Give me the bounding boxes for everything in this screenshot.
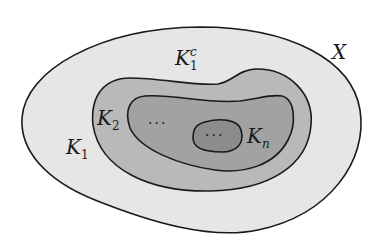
- label-x: X: [332, 42, 346, 62]
- label-k1-base: K: [66, 135, 81, 159]
- label-k2: K2: [97, 108, 120, 128]
- label-k2-base: K: [97, 106, 112, 130]
- label-k1: K1: [66, 137, 89, 157]
- label-kn: Kn: [247, 126, 270, 146]
- label-kn-base: K: [247, 124, 262, 148]
- label-k1c-base: K: [175, 46, 190, 70]
- nested-sets-diagram: [0, 0, 379, 252]
- label-k2-sub: 2: [112, 119, 120, 133]
- ellipsis-kn: ···: [205, 128, 224, 142]
- label-x-base: X: [332, 40, 346, 64]
- ellipsis-k2: ···: [148, 116, 167, 130]
- label-kn-sub: n: [262, 137, 270, 151]
- label-k1-complement: Kc1: [175, 48, 200, 68]
- label-k1-sub: 1: [81, 148, 89, 162]
